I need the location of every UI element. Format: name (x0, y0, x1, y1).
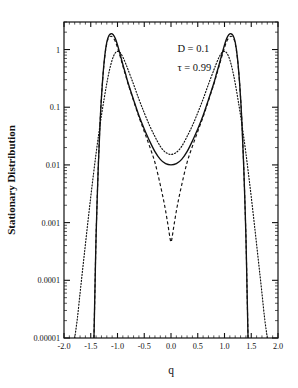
y-tick-label: 0.1 (50, 103, 60, 112)
x-tick-label: -2.0 (58, 342, 71, 351)
plot-frame (64, 22, 278, 338)
x-tick-label: 1.5 (246, 342, 256, 351)
x-tick-label: -0.5 (138, 342, 151, 351)
x-tick-label: -1.5 (84, 342, 97, 351)
x-axis-label: q (168, 364, 174, 377)
y-tick-label: 0.00001 (33, 334, 60, 343)
y-tick-label: 0.01 (46, 161, 60, 170)
y-tick-label: 1 (56, 46, 60, 55)
y-tick-label: 0.001 (42, 219, 60, 228)
y-tick-labels: 10.10.010.0010.00010.00001 (33, 46, 60, 343)
y-tick-label: 0.0001 (37, 276, 60, 285)
figure-container: -2.0-1.5-1.0-0.50.00.51.01.52.0 10.10.01… (0, 0, 298, 388)
curve-dashed (94, 36, 248, 338)
stationary-distribution-chart: -2.0-1.5-1.0-0.50.00.51.01.52.0 10.10.01… (0, 0, 298, 388)
x-tick-label: 0.5 (193, 342, 203, 351)
chart-annotations: D = 0.1τ = 0.99 (177, 43, 211, 73)
data-curves (75, 34, 268, 338)
x-tick-label: 0.0 (166, 342, 176, 351)
annotation-text: D = 0.1 (177, 43, 209, 54)
annotation-text: τ = 0.99 (177, 62, 211, 73)
axis-ticks (64, 22, 278, 338)
curve-dotted (75, 51, 268, 338)
x-tick-label: 2.0 (273, 342, 283, 351)
curve-solid (94, 34, 248, 338)
x-tick-label: 1.0 (219, 342, 229, 351)
y-axis-label: Stationary Distribution (5, 125, 17, 235)
x-tick-label: -1.0 (111, 342, 124, 351)
x-tick-labels: -2.0-1.5-1.0-0.50.00.51.01.52.0 (58, 342, 284, 351)
